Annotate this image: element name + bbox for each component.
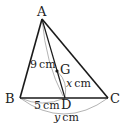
label-g: G [60, 62, 70, 77]
label-b: B [5, 91, 15, 106]
dim-ad-label: 9cm [30, 58, 56, 71]
label-a: A [36, 4, 47, 19]
label-d: D [61, 97, 71, 112]
centroid-g-dot [55, 69, 58, 72]
label-c: C [110, 91, 120, 106]
dim-bc-label: ycm [53, 111, 79, 124]
dim-gd-label: xcm [66, 77, 91, 90]
triangle-diagram: A B C D G 9cm xcm 5cm ycm [0, 0, 126, 129]
